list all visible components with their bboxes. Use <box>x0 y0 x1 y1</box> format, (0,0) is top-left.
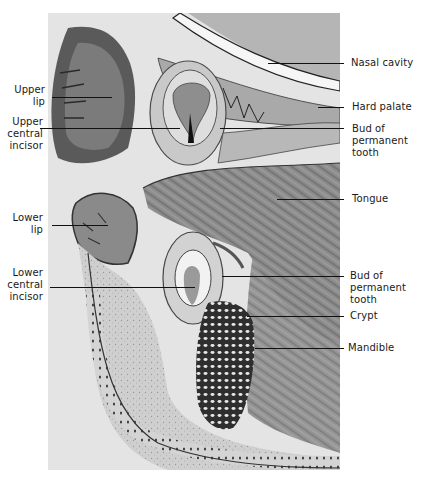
leader-crypt <box>247 316 344 317</box>
label-upper-lip: Upper lip <box>14 84 45 108</box>
leader-bud-lower <box>222 276 344 277</box>
leader-bud-upper <box>220 128 344 129</box>
leader-mandible <box>255 348 344 349</box>
label-crypt: Crypt <box>350 310 378 322</box>
leader-tongue <box>277 199 344 200</box>
label-nasal-cavity: Nasal cavity <box>351 57 413 69</box>
label-mandible: Mandible <box>348 342 394 354</box>
label-lower-lip: Lower lip <box>13 212 43 236</box>
leader-upper-central-incisor <box>40 128 180 129</box>
leader-upper-lip <box>52 97 112 98</box>
label-hard-palate: Hard palate <box>352 101 412 113</box>
label-bud-of-permanent-tooth-lower: Bud of permanent tooth <box>350 270 406 306</box>
micrograph-image <box>48 13 340 470</box>
label-lower-central-incisor: Lower central incisor <box>7 267 43 303</box>
leader-lower-central-incisor <box>50 287 195 288</box>
leader-lower-lip <box>52 225 108 226</box>
leader-hard-palate <box>318 107 344 108</box>
histology-figure: Upper lip Upper central incisor Lower li… <box>0 0 421 484</box>
label-tongue: Tongue <box>352 193 388 205</box>
leader-nasal-cavity <box>268 63 344 64</box>
label-upper-central-incisor: Upper central incisor <box>7 116 43 152</box>
label-bud-of-permanent-tooth-upper: Bud of permanent tooth <box>352 123 408 159</box>
